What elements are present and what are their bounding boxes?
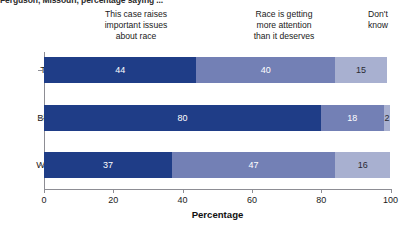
bar-value-label: 15 <box>356 66 366 75</box>
bar-segment: 15 <box>335 57 387 83</box>
bar-value-label: 44 <box>115 66 125 75</box>
x-axis-tick-label: 80 <box>306 195 336 205</box>
bar-segment: 16 <box>335 152 390 178</box>
column-header-line: Race is getting <box>219 9 349 20</box>
x-axis-tick-label: 40 <box>168 195 198 205</box>
bar-value-label: 37 <box>103 161 113 170</box>
x-axis-tick <box>183 189 184 193</box>
column-header-line: about race <box>62 31 210 42</box>
column-header-line: know <box>352 20 404 31</box>
x-axis-tick-label: 20 <box>98 195 128 205</box>
bar-value-label: 16 <box>358 161 368 170</box>
x-axis-line <box>44 189 391 190</box>
bar-segment: 40 <box>196 57 335 83</box>
stacked-bar-chart: Ferguson, Missouri, percentage saying ..… <box>0 0 409 226</box>
column-header-line: than it deserves <box>219 31 349 42</box>
column-header-line: Don't <box>352 9 404 20</box>
bar-value-label: 40 <box>261 66 271 75</box>
x-axis-tick <box>391 189 392 193</box>
x-axis-title: Percentage <box>44 209 391 220</box>
column-header-line: This case raises <box>62 9 210 20</box>
bar-segment: 80 <box>44 105 321 131</box>
column-header-line: more attention <box>219 20 349 31</box>
bar-value-label: 47 <box>249 161 259 170</box>
bar-segment: 47 <box>172 152 335 178</box>
bar-segment: 44 <box>44 57 196 83</box>
bar-segment: 18 <box>321 105 383 131</box>
x-axis-tick <box>321 189 322 193</box>
column-header-dont-know: Don'tknow <box>352 9 404 31</box>
bar-value-label: 2 <box>385 114 390 123</box>
column-header-more-attention: Race is gettingmore attentionthan it des… <box>219 9 349 43</box>
bar-segment: 2 <box>384 105 391 131</box>
bar-segment: 37 <box>44 152 172 178</box>
bar-value-label: 80 <box>178 114 188 123</box>
source-caption: Ferguson, Missouri, percentage saying ..… <box>0 0 260 5</box>
column-header-line: important issues <box>62 20 210 31</box>
x-axis-tick-label: 100 <box>376 195 406 205</box>
column-header-issues-about-race: This case raisesimportant issuesabout ra… <box>62 9 210 43</box>
bar-value-label: 18 <box>347 114 357 123</box>
x-axis-tick-label: 60 <box>237 195 267 205</box>
x-axis-tick <box>113 189 114 193</box>
x-axis-tick <box>252 189 253 193</box>
x-axis-tick <box>44 189 45 193</box>
x-axis-tick-label: 0 <box>29 195 59 205</box>
